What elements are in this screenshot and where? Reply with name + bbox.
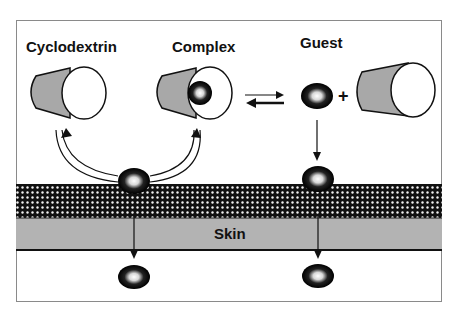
cyclodextrin-cone-icon: [31, 67, 106, 119]
surface-guest-right-icon: [302, 166, 334, 192]
absorbed-guest-left-icon: [118, 265, 150, 289]
free-cyclodextrin-cone-icon: [357, 63, 435, 117]
complex-cone-icon: [157, 67, 232, 119]
complex-label: Complex: [172, 38, 235, 55]
surface-guest-left-icon: [118, 168, 150, 194]
plus-sign: +: [338, 86, 349, 107]
guest-down-arrow-icon: [313, 120, 321, 161]
equilibrium-arrows-icon: [245, 91, 284, 108]
skin-label: Skin: [214, 225, 246, 242]
dotted-layer: [16, 184, 442, 218]
guest-molecule-icon: [301, 83, 333, 109]
guest-label: Guest: [300, 34, 343, 51]
complexed-guest-icon: [188, 81, 212, 105]
absorbed-guest-right-icon: [302, 264, 334, 288]
cyclodextrin-label: Cyclodextrin: [26, 38, 117, 55]
